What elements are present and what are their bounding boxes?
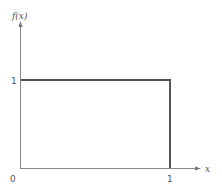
uniform-distribution-chart: f(x) x 0 1 1	[0, 0, 222, 188]
y-tick-1: 1	[11, 76, 17, 86]
x-axis-label: x	[205, 164, 210, 174]
x-tick-1: 1	[167, 174, 173, 184]
density-line	[21, 80, 170, 168]
y-axis-label: f(x)	[11, 11, 28, 21]
origin-label: 0	[10, 174, 16, 184]
